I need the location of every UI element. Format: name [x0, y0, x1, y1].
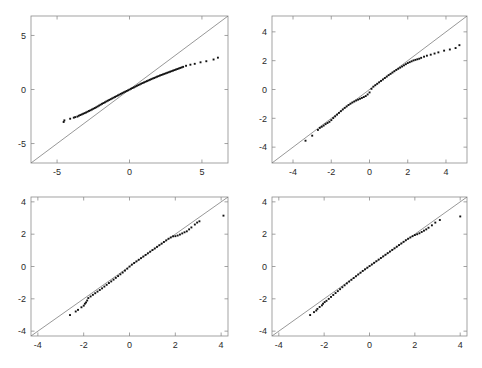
data-point — [394, 247, 396, 249]
data-point — [330, 296, 332, 298]
data-point — [369, 91, 371, 93]
y-tick-label: 4 — [262, 27, 267, 37]
data-point — [380, 80, 382, 82]
quantile-scatter — [309, 215, 461, 315]
data-point — [346, 282, 348, 284]
data-point — [353, 277, 355, 279]
data-point — [439, 219, 441, 221]
data-point — [346, 105, 348, 107]
data-point — [165, 239, 167, 241]
data-point — [378, 81, 380, 83]
data-point — [405, 239, 407, 241]
y-tick-label: -4 — [18, 326, 26, 336]
data-point — [384, 254, 386, 256]
y-tick-label: -5 — [18, 139, 26, 149]
data-point — [142, 256, 144, 258]
data-point — [198, 220, 200, 222]
data-point — [391, 249, 393, 251]
x-tick-label: 0 — [127, 167, 132, 177]
data-point — [170, 237, 172, 239]
data-point — [325, 123, 327, 125]
data-point — [126, 268, 128, 270]
data-point — [188, 228, 190, 230]
data-point — [423, 56, 425, 58]
data-point — [156, 246, 158, 248]
data-point — [94, 292, 96, 294]
data-point — [360, 272, 362, 274]
data-point — [375, 260, 377, 262]
data-point — [92, 294, 94, 296]
data-point — [110, 280, 112, 282]
data-point — [355, 275, 357, 277]
x-tick-label: -5 — [53, 167, 61, 177]
data-point — [119, 273, 121, 275]
data-point — [353, 101, 355, 103]
data-point — [434, 53, 436, 55]
data-point — [332, 117, 334, 119]
x-tick-label: -4 — [34, 340, 42, 350]
data-point — [403, 241, 405, 243]
data-point — [163, 241, 165, 243]
data-point — [149, 251, 151, 253]
y-tick-label: -2 — [18, 294, 26, 304]
data-point — [372, 86, 374, 88]
data-point — [309, 314, 311, 316]
data-point — [77, 309, 79, 311]
data-point — [311, 135, 313, 137]
data-point — [63, 121, 65, 123]
data-point — [129, 266, 131, 268]
data-point — [181, 232, 183, 234]
data-point — [158, 244, 160, 246]
data-point — [443, 50, 445, 52]
data-point — [217, 57, 219, 59]
data-point — [369, 265, 371, 267]
data-point — [400, 242, 402, 244]
panel-bottom-right: -4-2024-4-2024 — [248, 185, 481, 356]
data-point — [122, 272, 124, 274]
data-point — [392, 72, 394, 74]
data-point — [371, 88, 373, 90]
data-point — [337, 290, 339, 292]
data-point — [184, 231, 186, 233]
data-point — [376, 83, 378, 85]
data-point — [349, 103, 351, 105]
data-point — [117, 275, 119, 277]
data-point — [147, 252, 149, 254]
data-point — [339, 288, 341, 290]
data-point — [434, 222, 436, 224]
data-point — [315, 310, 317, 312]
x-tick-label: 2 — [405, 167, 410, 177]
data-point — [135, 260, 137, 262]
x-tick-label: -2 — [320, 340, 328, 350]
quantile-scatter — [69, 215, 224, 316]
data-point — [108, 282, 110, 284]
data-point — [323, 125, 325, 127]
data-point — [407, 62, 409, 64]
data-point — [80, 306, 82, 308]
data-point — [364, 268, 366, 270]
y-tick-label: 2 — [262, 229, 267, 239]
data-point — [366, 267, 368, 269]
y-tick-label: 2 — [262, 56, 267, 66]
data-point — [421, 231, 423, 233]
data-point — [186, 230, 188, 232]
data-point — [459, 215, 461, 217]
data-point — [69, 118, 71, 120]
data-point — [319, 306, 321, 308]
data-point — [395, 69, 397, 71]
data-point — [351, 102, 353, 104]
data-point — [83, 305, 85, 307]
data-point — [418, 232, 420, 234]
data-point — [338, 112, 340, 114]
data-point — [449, 49, 451, 51]
data-point — [75, 311, 77, 313]
data-point — [319, 127, 321, 129]
y-tick-label: -2 — [259, 114, 267, 124]
data-point — [321, 126, 323, 128]
y-tick-label: 4 — [262, 197, 267, 207]
data-point — [327, 122, 329, 124]
data-point — [342, 108, 344, 110]
data-point — [332, 294, 334, 296]
quantile-scatter — [63, 57, 219, 123]
data-point — [99, 289, 101, 291]
